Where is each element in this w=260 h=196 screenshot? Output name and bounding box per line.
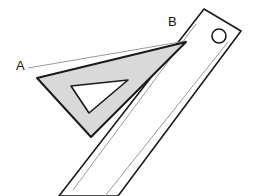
ruler-hanging-hole [212,29,226,43]
point-label-b: B [168,14,177,29]
figure-canvas: A B [0,0,260,196]
point-label-a: A [16,58,25,73]
geometry-figure: A B [0,0,260,196]
